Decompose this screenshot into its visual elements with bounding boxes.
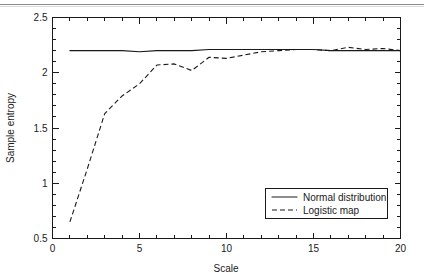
x-tick-label: 10 bbox=[221, 243, 233, 254]
x-tick-label: 15 bbox=[308, 243, 320, 254]
series-line-normal-distribution bbox=[70, 50, 401, 52]
x-tick-label: 0 bbox=[50, 243, 56, 254]
x-tick-label: 20 bbox=[395, 243, 407, 254]
y-tick-label: 1 bbox=[42, 178, 48, 189]
x-axis-title: Scale bbox=[213, 263, 238, 274]
legend-label-logistic-map: Logistic map bbox=[303, 205, 360, 216]
x-tick-label: 5 bbox=[137, 243, 143, 254]
y-tick-label: 2 bbox=[42, 67, 48, 78]
legend: Normal distribution Logistic map bbox=[266, 189, 388, 219]
y-axis-title: Sample entropy bbox=[5, 93, 16, 163]
y-tick-label: 0.5 bbox=[34, 233, 48, 244]
legend-label-normal-distribution: Normal distribution bbox=[303, 192, 386, 203]
sample-entropy-line-chart: 05101520 0.511.522.5 Scale Sample entrop… bbox=[0, 0, 424, 277]
y-tick-label: 2.5 bbox=[34, 12, 48, 23]
y-tick-label: 1.5 bbox=[34, 123, 48, 134]
figure-canvas: 05101520 0.511.522.5 Scale Sample entrop… bbox=[0, 0, 424, 277]
y-axis-tick-labels: 0.511.522.5 bbox=[34, 12, 48, 244]
x-axis-tick-labels: 05101520 bbox=[50, 243, 407, 254]
